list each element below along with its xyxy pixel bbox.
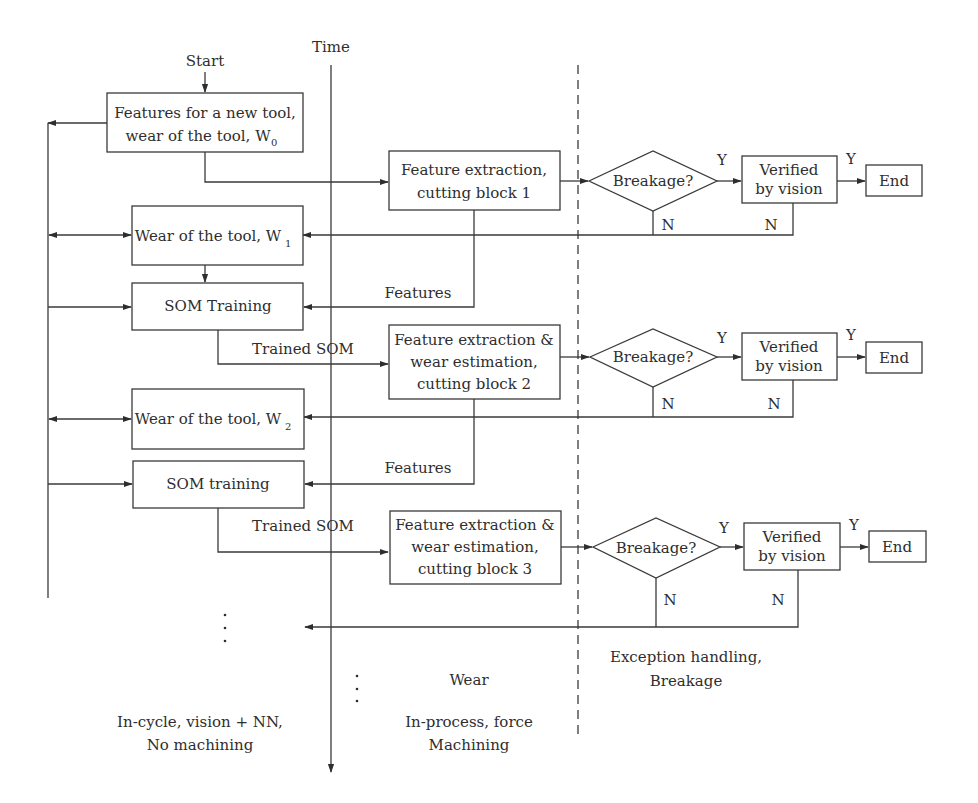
yes-label-verify-2: Y: [845, 326, 857, 344]
region-left-line2: No machining: [147, 736, 254, 754]
region-left-line1: In-cycle, vision + NN,: [117, 713, 283, 731]
svg-text:Breakage?: Breakage?: [613, 348, 694, 366]
svg-text:by vision: by vision: [755, 357, 823, 375]
svg-text:wear estimation,: wear estimation,: [410, 353, 537, 371]
svg-text:Verified: Verified: [759, 338, 819, 356]
yes-label-verify-1: Y: [845, 150, 857, 168]
start-label: Start: [186, 52, 224, 70]
svg-text:cutting block 2: cutting block 2: [417, 375, 531, 393]
region-right-line1: Exception handling,: [610, 648, 762, 666]
process-box-block-3: Feature extraction & wear estimation, cu…: [390, 511, 561, 584]
svg-text:SOM Training: SOM Training: [164, 297, 272, 315]
no-label-verify-3: N: [771, 591, 784, 609]
svg-text:Breakage?: Breakage?: [613, 172, 694, 190]
verified-by-vision-box-3: Verified by vision: [744, 523, 840, 570]
yes-label-1: Y: [716, 151, 728, 169]
svg-text:by vision: by vision: [755, 180, 823, 198]
svg-text:End: End: [882, 538, 913, 556]
svg-text:Features for a new tool,: Features for a new tool,: [114, 104, 296, 122]
svg-text:cutting block 1: cutting block 1: [417, 184, 531, 202]
svg-text:0: 0: [271, 137, 277, 148]
verified-by-vision-box-2: Verified by vision: [742, 333, 837, 380]
verified-by-vision-box-1: Verified by vision: [742, 156, 837, 203]
svg-text:SOM training: SOM training: [166, 475, 270, 493]
yes-label-verify-3: Y: [848, 516, 860, 534]
svg-text:Wear of the tool, W: Wear of the tool, W: [135, 410, 282, 428]
region-middle-line2: Machining: [429, 736, 510, 754]
som-training-box-1: SOM Training: [132, 283, 303, 330]
no-label-verify-1: N: [764, 216, 777, 234]
yes-label-3: Y: [718, 519, 730, 537]
trained-som-label-1: Trained SOM: [252, 340, 354, 358]
svg-text:Feature extraction,: Feature extraction,: [401, 161, 547, 179]
region-right-line2: Breakage: [650, 672, 723, 690]
region-middle-line1: In-process, force: [405, 713, 533, 731]
process-box-block-2: Feature extraction & wear estimation, cu…: [389, 325, 560, 399]
end-box-1: End: [866, 165, 922, 196]
init-features-box: Features for a new tool, wear of the too…: [107, 93, 303, 152]
svg-text:by vision: by vision: [758, 547, 826, 565]
svg-text:End: End: [879, 349, 910, 367]
no-label-1: N: [661, 216, 674, 234]
svg-text:Feature extraction &: Feature extraction &: [394, 331, 553, 349]
svg-text:End: End: [879, 172, 910, 190]
svg-text:Breakage?: Breakage?: [616, 539, 697, 557]
svg-text:Feature extraction &: Feature extraction &: [395, 516, 554, 534]
som-training-box-2: SOM training: [133, 461, 304, 508]
time-axis-label: Time: [312, 38, 350, 56]
svg-text:Verified: Verified: [762, 528, 822, 546]
wear-box-w1: Wear of the tool, W 1: [132, 206, 303, 265]
init-to-block1-arrow: [205, 152, 388, 182]
breakage-decision-2: Breakage?: [590, 329, 717, 387]
region-middle-top: Wear: [449, 671, 489, 689]
features-label-1: Features: [385, 284, 452, 302]
no-label-3: N: [663, 591, 676, 609]
svg-text:1: 1: [285, 238, 291, 249]
flowchart-canvas: Start Time Features for a new tool, wear…: [0, 0, 978, 803]
svg-text:wear estimation,: wear estimation,: [411, 538, 538, 556]
no-label-verify-2: N: [767, 395, 780, 413]
svg-text:Wear of the tool, W: Wear of the tool, W: [135, 227, 282, 245]
breakage-decision-3: Breakage?: [593, 518, 720, 578]
svg-text:cutting block 3: cutting block 3: [418, 560, 532, 578]
end-box-2: End: [866, 342, 922, 373]
process-box-block-1: Feature extraction, cutting block 1: [389, 151, 560, 210]
features-label-2: Features: [385, 459, 452, 477]
svg-text:Verified: Verified: [759, 161, 819, 179]
trained-som-label-2: Trained SOM: [252, 517, 354, 535]
continuation-dots-middle: [356, 675, 359, 703]
end-box-3: End: [869, 531, 926, 562]
svg-text:wear of the tool, W: wear of the tool, W: [125, 127, 271, 145]
wear-box-w2: Wear of the tool, W 2: [132, 389, 304, 449]
breakage-decision-1: Breakage?: [589, 151, 717, 211]
yes-label-2: Y: [716, 329, 728, 347]
no-label-2: N: [661, 395, 674, 413]
svg-text:2: 2: [285, 421, 291, 432]
continuation-dots-left: [224, 614, 227, 643]
